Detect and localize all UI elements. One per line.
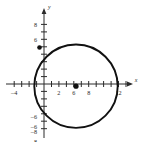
y-tick-label-8: 8 <box>34 21 37 28</box>
y-tick-label--6-visible: –6 <box>30 113 37 120</box>
x-tick-label-8: 8 <box>87 89 90 96</box>
y-axis-label: y <box>47 4 51 10</box>
x-axis-arrow-icon <box>127 82 133 87</box>
x-tick-label--4: –4 <box>10 89 17 96</box>
x-tick-label-2: 2 <box>57 89 60 96</box>
x-tick-labels: –4 2 6 8 12 <box>10 89 121 96</box>
y-tick-label--8-visible: –8 <box>30 128 37 135</box>
x-axis-label: x <box>134 77 138 83</box>
point-on-circle-dot <box>37 45 42 50</box>
graph-canvas: x –4 2 6 8 12 <box>0 0 141 142</box>
plotted-points <box>37 45 78 89</box>
center-point-dot <box>73 84 78 89</box>
y-tick-label--8: –8 <box>30 138 37 143</box>
y-tick-label-6: 6 <box>34 36 37 43</box>
x-tick-label-6: 6 <box>72 89 75 96</box>
coordinate-plane-figure: x –4 2 6 8 12 <box>0 0 141 142</box>
y-tick-labels: 8 6 –6 –8 <box>30 21 37 142</box>
y-axis-arrow-icon <box>42 8 47 14</box>
y-axis: y 8 6 –6 –8 –6 –8 <box>30 4 51 142</box>
